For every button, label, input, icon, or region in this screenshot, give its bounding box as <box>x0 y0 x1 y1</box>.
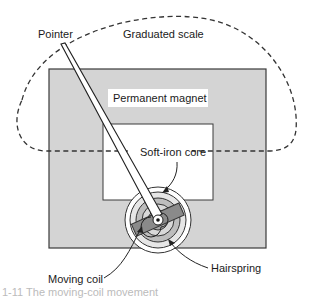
hairspring-label: Hairspring <box>211 262 261 274</box>
pivot-dot <box>156 218 160 222</box>
moving-coil-label: Moving coil <box>48 273 103 285</box>
pointer-label: Pointer <box>38 28 73 40</box>
figure-caption: 1-11 The moving-coil movement <box>2 286 158 298</box>
soft-iron-core-label: Soft-iron core <box>140 146 206 158</box>
permanent-magnet-label: Permanent magnet <box>113 92 207 104</box>
graduated-scale-label: Graduated scale <box>123 28 204 40</box>
